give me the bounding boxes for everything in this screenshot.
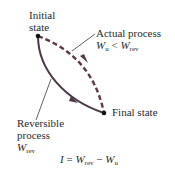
- work-actual-subscript: u: [114, 159, 118, 167]
- work-actual-symbol: W: [96, 39, 105, 51]
- reversible-process-curve: [38, 36, 104, 113]
- final-state-label: Final state: [112, 106, 158, 118]
- final-state-point: [102, 111, 107, 116]
- work-rev-symbol: W: [120, 39, 129, 51]
- actual-process-leader: [72, 34, 95, 51]
- work-rev-subscript: rev: [26, 147, 35, 155]
- initial-state-line2: state: [29, 21, 55, 33]
- less-than-operator: <: [109, 39, 121, 51]
- work-rev-subscript: rev: [85, 159, 94, 167]
- actual-process-label: Actual process Wu < Wrev: [96, 27, 161, 55]
- work-rev-symbol: W: [17, 141, 26, 153]
- actual-process-relation: Wu < Wrev: [96, 39, 161, 55]
- initial-state-line1: Initial: [29, 9, 55, 21]
- work-rev-subscript: rev: [130, 45, 139, 53]
- equals-operator: =: [64, 153, 76, 165]
- actual-process-arrow-icon: [80, 54, 88, 63]
- minus-operator: −: [94, 153, 106, 165]
- initial-state-point: [36, 34, 41, 39]
- reversible-process-label: Reversible process Wrev: [17, 117, 64, 157]
- work-rev-symbol: W: [75, 153, 84, 165]
- reversible-process-line2: process: [17, 129, 64, 141]
- actual-process-curve: [38, 36, 104, 113]
- reversible-process-work: Wrev: [17, 141, 64, 157]
- reversible-process-line1: Reversible: [17, 117, 64, 129]
- actual-process-title: Actual process: [96, 27, 161, 39]
- irreversibility-equation: I = Wrev − Wu: [60, 153, 118, 169]
- initial-state-label: Initial state: [29, 9, 55, 33]
- reversible-process-leader: [36, 79, 51, 120]
